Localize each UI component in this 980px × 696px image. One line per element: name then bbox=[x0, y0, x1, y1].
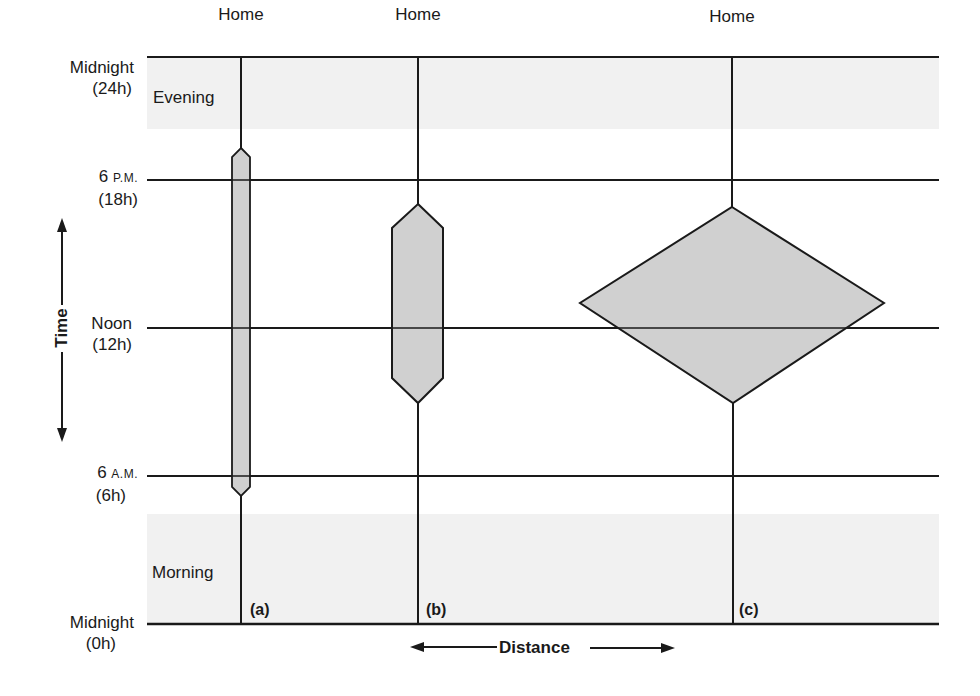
tick-main: 6 A.M. bbox=[96, 462, 138, 485]
panel-label-b: (b) bbox=[426, 601, 446, 619]
tick-number: 6 bbox=[99, 167, 108, 186]
evening-band bbox=[147, 57, 939, 129]
panel-label-a: (a) bbox=[250, 601, 270, 619]
home-label-b: Home bbox=[395, 5, 440, 25]
tick-sub: (6h) bbox=[96, 485, 126, 506]
tick-6pm: 6 P.M. (18h) bbox=[98, 166, 138, 210]
distance-axis-label: Distance bbox=[499, 638, 570, 658]
tick-midnight-24: Midnight (24h) bbox=[70, 57, 134, 99]
morning-label: Morning bbox=[152, 563, 213, 583]
tick-sub: (18h) bbox=[98, 189, 138, 210]
space-time-diagram bbox=[0, 0, 980, 696]
tick-sub: (12h) bbox=[91, 334, 132, 355]
tick-noon: Noon (12h) bbox=[91, 313, 132, 355]
tick-midnight-0: Midnight (0h) bbox=[70, 612, 134, 654]
tick-period: A.M. bbox=[111, 467, 138, 481]
home-label-c: Home bbox=[709, 7, 754, 27]
time-axis-label: Time bbox=[52, 306, 72, 349]
tick-period: P.M. bbox=[113, 171, 138, 185]
tick-main: 6 P.M. bbox=[98, 166, 138, 189]
tick-sub: (24h) bbox=[70, 78, 132, 99]
tick-main: Midnight bbox=[70, 612, 134, 633]
tick-main: Noon bbox=[91, 313, 132, 334]
tick-main: Midnight bbox=[70, 57, 134, 78]
tick-6am: 6 A.M. (6h) bbox=[96, 462, 138, 506]
tick-number: 6 bbox=[97, 463, 106, 482]
home-label-a: Home bbox=[218, 5, 263, 25]
panel-label-c: (c) bbox=[739, 601, 759, 619]
tick-sub: (0h) bbox=[70, 633, 116, 654]
evening-label: Evening bbox=[153, 88, 214, 108]
